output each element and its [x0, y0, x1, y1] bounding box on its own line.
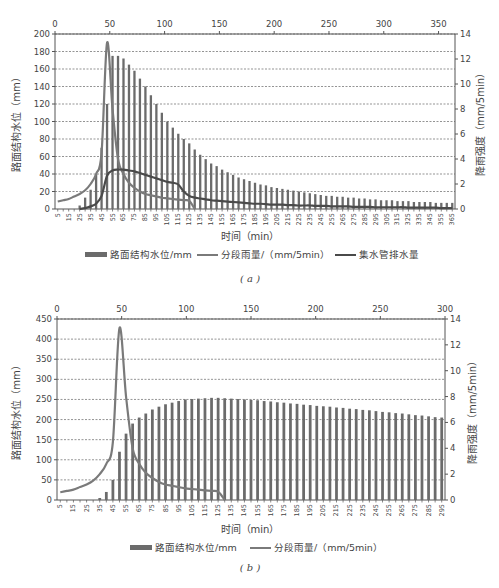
top-tick-label: 200 [308, 304, 324, 314]
chart-b-y-axis-label: 路面结构水位（mm） [10, 360, 22, 459]
y2-tick-label: 10 [450, 366, 461, 376]
chart-b-subtitle: ( b ) [240, 562, 261, 573]
bar [250, 400, 253, 500]
x-tick-label: 155 [254, 504, 262, 516]
bar [144, 414, 147, 500]
bar [342, 408, 345, 500]
y-tick-label: 160 [34, 64, 50, 74]
y-tick-label: 200 [36, 415, 52, 425]
x-tick-label: 265 [339, 213, 347, 225]
y-tick-label: 120 [34, 99, 50, 109]
bar [236, 399, 239, 500]
legend-item-rainfall: 分段雨量/（mm/5min） [274, 542, 383, 553]
y-tick-label: 40 [39, 169, 50, 179]
top-tick-label: 50 [104, 19, 115, 29]
bar [106, 104, 108, 209]
chart-a-subtitle: ( a ) [240, 273, 260, 284]
chart-b-x-axis-label: 时间（min） [221, 523, 280, 535]
y2-tick-label: 10 [460, 79, 471, 89]
y-tick-label: 400 [36, 334, 52, 344]
bar [414, 415, 417, 500]
bar [210, 164, 212, 210]
bar [205, 159, 207, 209]
bar [188, 143, 190, 209]
bar [296, 404, 299, 500]
x-tick-label: 275 [350, 213, 358, 225]
x-tick-label: 175 [240, 213, 248, 225]
legend-item-rainfall: 分段雨量/（mm/5min） [221, 249, 330, 260]
x-tick-label: 95 [175, 504, 183, 512]
bar [309, 405, 312, 500]
bar [204, 398, 207, 500]
bar [128, 65, 130, 209]
top-tick-label: 100 [178, 304, 194, 314]
bar [269, 401, 272, 500]
bar [248, 181, 250, 209]
x-tick-label: 285 [361, 213, 369, 225]
x-tick-label: 255 [328, 213, 336, 225]
bar [138, 418, 141, 500]
x-tick-label: 155 [218, 213, 226, 225]
x-tick-label: 245 [372, 504, 380, 516]
bar [292, 191, 294, 209]
x-tick-label: 15 [69, 504, 77, 512]
bar [434, 417, 437, 500]
top-tick-label: 150 [243, 304, 259, 314]
x-tick-label: 5 [54, 213, 62, 217]
bar [122, 59, 124, 210]
legend-item-water-level: 路面结构水位/mm [155, 542, 237, 553]
bar [375, 411, 378, 500]
y-tick-label: 180 [34, 47, 50, 57]
y2-tick-label: 0 [460, 204, 465, 214]
x-tick-label: 25 [76, 213, 84, 221]
bar [172, 128, 174, 209]
bar [355, 409, 358, 500]
x-tick-label: 265 [398, 504, 406, 516]
x-tick-label: 75 [148, 504, 156, 512]
bar [276, 402, 279, 500]
bar [394, 413, 397, 500]
y2-tick-label: 8 [450, 392, 455, 402]
x-tick-label: 85 [141, 213, 149, 221]
x-tick-label: 55 [109, 213, 117, 221]
chart-a-y-axis-label: 路面结构水位（mm） [10, 72, 22, 171]
x-tick-label: 345 [426, 213, 434, 225]
legend-item-drainage: 集水管排水量 [359, 249, 419, 260]
bar [155, 104, 157, 209]
bar [194, 150, 196, 210]
x-tick-label: 245 [317, 213, 325, 225]
bar [158, 407, 161, 500]
x-tick-label: 105 [163, 213, 171, 225]
x-tick-label: 335 [415, 213, 423, 225]
top-tick-label: 300 [437, 304, 453, 314]
top-tick-label: 0 [52, 19, 57, 29]
bar [259, 185, 261, 210]
x-tick-label: 215 [332, 504, 340, 516]
x-tick-label: 205 [273, 213, 281, 225]
bar [161, 113, 163, 209]
x-tick-label: 275 [411, 504, 419, 516]
x-tick-label: 125 [214, 504, 222, 516]
bar [199, 155, 201, 209]
y-tick-label: 250 [36, 394, 52, 404]
x-tick-label: 235 [306, 213, 314, 225]
top-tick-label: 200 [266, 19, 282, 29]
bar [232, 175, 234, 209]
chart-a: 0204060801001201401601802000246810121405… [34, 19, 471, 225]
y2-tick-label: 4 [460, 154, 465, 164]
x-tick-label: 55 [122, 504, 130, 512]
y-tick-label: 80 [39, 134, 50, 144]
x-tick-label: 115 [201, 504, 209, 516]
y-tick-label: 60 [39, 152, 50, 162]
bar [197, 399, 200, 500]
chart-b: 0501001502002503003504004500246810121405… [36, 304, 461, 516]
bar [256, 400, 259, 500]
top-tick-label: 150 [211, 19, 227, 29]
y2-tick-label: 12 [450, 340, 461, 350]
y2-tick-label: 6 [460, 129, 465, 139]
x-tick-label: 115 [174, 213, 182, 225]
rainfall-line [60, 327, 224, 500]
bar [112, 480, 115, 500]
bar [348, 409, 351, 500]
bar [230, 399, 233, 500]
